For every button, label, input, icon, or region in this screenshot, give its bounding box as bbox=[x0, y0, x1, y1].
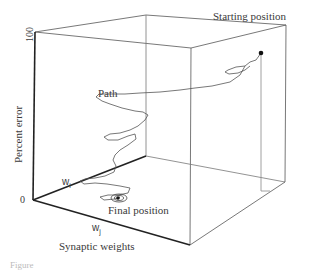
y-tick-100: 100 bbox=[24, 27, 35, 42]
path-label: Path bbox=[98, 87, 118, 99]
x-axis-label: Synaptic weights bbox=[59, 240, 134, 252]
w-i-axis-label: wi bbox=[62, 176, 71, 189]
w-j-subscript: j bbox=[99, 228, 101, 235]
y-tick-0: 0 bbox=[20, 194, 25, 205]
final-position-label: Final position bbox=[108, 204, 169, 216]
y-axis-label: Percent error bbox=[12, 106, 24, 163]
descent-path bbox=[80, 53, 261, 200]
starting-position-label: Starting position bbox=[213, 10, 286, 22]
w-j-axis-label: wj bbox=[92, 222, 101, 235]
final-position-marker bbox=[111, 194, 127, 202]
caption-partial: Figure bbox=[10, 260, 34, 270]
starting-position-marker bbox=[259, 51, 264, 56]
w-i-subscript: i bbox=[69, 182, 71, 189]
